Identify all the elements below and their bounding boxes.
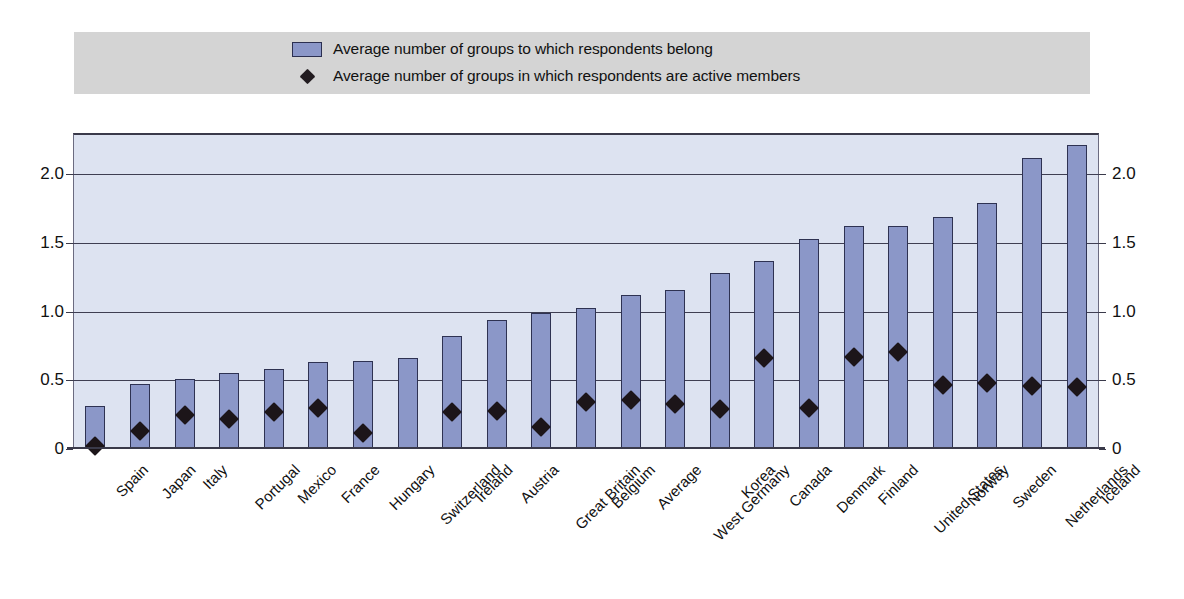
category-label-mexico: Mexico [294, 461, 340, 507]
bar-united-states [888, 226, 908, 449]
legend-item-diamonds: Average number of groups in which respon… [292, 65, 800, 87]
y-axis-tick-label: 1.0 [40, 302, 64, 322]
chart-legend: Average number of groups to which respon… [74, 32, 1090, 94]
category-label-italy: Italy [199, 461, 230, 492]
tick-left [66, 449, 73, 450]
tick-right [1099, 174, 1106, 175]
bar-netherlands [1022, 158, 1042, 449]
bar-west-germany [665, 290, 685, 449]
bar-swatch-icon [292, 42, 322, 57]
bar-iceland [1067, 145, 1087, 449]
tick-right [1099, 312, 1106, 313]
x-axis-baseline [67, 447, 1105, 449]
bar-belgium [576, 308, 596, 450]
y-axis-tick-label: 0.5 [40, 370, 64, 390]
legend-label-bars: Average number of groups to which respon… [333, 40, 713, 58]
bar-korea [710, 273, 730, 449]
category-label-portugal: Portugal [251, 461, 303, 513]
category-label-japan: Japan [158, 461, 199, 502]
tick-left [66, 312, 73, 313]
category-label-canada: Canada [786, 461, 835, 510]
gridline [73, 174, 1099, 175]
category-label-sweden: Sweden [1009, 461, 1059, 511]
tick-right [1099, 243, 1106, 244]
y-axis-tick-label: 1.5 [1112, 233, 1136, 253]
y-axis-tick-label: 2.0 [1112, 164, 1136, 184]
tick-left [66, 243, 73, 244]
bar-ireland [442, 336, 462, 449]
bar-sweden [977, 203, 997, 449]
y-axis-tick-label: 0 [1112, 439, 1121, 459]
category-label-hungary: Hungary [386, 461, 438, 513]
diamond-marker-icon [292, 71, 322, 82]
tick-right [1099, 380, 1106, 381]
bar-average [621, 295, 641, 449]
tick-left [66, 174, 73, 175]
category-label-average: Average [653, 461, 704, 512]
bar-chart: 2.01.51.00.50 2.01.51.00.50 SpainJapanIt… [73, 133, 1099, 449]
category-label-austria: Austria [516, 461, 561, 506]
bar-norway [933, 217, 953, 449]
category-label-denmark: Denmark [833, 461, 888, 516]
y-axis-tick-label: 1.0 [1112, 302, 1136, 322]
y-axis-tick-label: 2.0 [40, 164, 64, 184]
y-axis-tick-label: 1.5 [40, 233, 64, 253]
bar-switzerland [398, 358, 418, 449]
tick-right [1099, 449, 1106, 450]
legend-item-bars: Average number of groups to which respon… [292, 38, 713, 60]
legend-label-diamonds: Average number of groups in which respon… [333, 67, 800, 85]
y-axis-tick-label: 0.5 [1112, 370, 1136, 390]
y-axis-tick-label: 0 [55, 439, 64, 459]
bar-finland [844, 226, 864, 449]
category-label-spain: Spain [113, 461, 152, 500]
category-label-france: France [338, 461, 383, 506]
bar-austria [487, 320, 507, 449]
tick-left [66, 380, 73, 381]
